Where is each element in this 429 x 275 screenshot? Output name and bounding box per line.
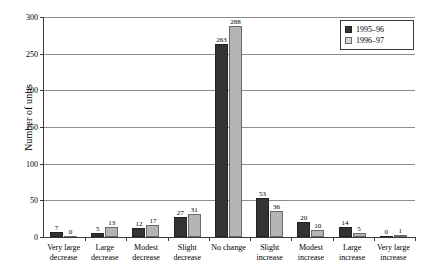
x-axis-label-line: Slight	[249, 243, 290, 253]
bar-chart: Number of units 050100150200250300 70513…	[0, 0, 429, 275]
bar-1: 0	[64, 236, 77, 237]
x-axis-category-label: No change	[208, 243, 249, 253]
bar-value-label: 288	[230, 18, 241, 26]
bar-1: 13	[105, 227, 118, 237]
bar-0: 263	[215, 44, 228, 237]
x-tick-mark	[374, 237, 375, 241]
bar-value-label: 263	[216, 36, 227, 44]
bar-0: 14	[339, 227, 352, 237]
x-tick-mark	[250, 237, 251, 241]
x-axis-label-line: increase	[332, 253, 373, 263]
bar-value-label: 10	[314, 222, 321, 230]
bar-0: 5	[91, 233, 104, 237]
x-axis-labels: Very largedecreaseLargedecreaseModestdec…	[43, 243, 414, 273]
legend-item[interactable]: 1995–96	[345, 24, 409, 35]
x-axis-category-label: Very largedecrease	[43, 243, 84, 262]
bar-1: 31	[188, 214, 201, 237]
bar-value-label: 17	[149, 217, 156, 225]
x-axis-label-line: Very large	[373, 243, 414, 253]
bar-group: 70	[44, 17, 85, 237]
x-axis-label-line: decrease	[167, 253, 208, 263]
y-tick-label: 250	[26, 49, 38, 58]
x-tick-mark	[126, 237, 127, 241]
x-tick-mark	[168, 237, 169, 241]
x-axis-label-line: decrease	[43, 253, 84, 263]
legend-swatch-icon	[345, 26, 352, 33]
bar-1: 10	[311, 230, 324, 237]
bar-0: 0	[380, 236, 393, 237]
bar-0: 53	[256, 198, 269, 237]
x-tick-mark	[85, 237, 86, 241]
x-tick-mark	[291, 237, 292, 241]
bar-group: 5336	[250, 17, 291, 237]
legend-label: 1995–96	[356, 25, 384, 34]
bar-value-label: 53	[259, 190, 266, 198]
bar-value-label: 5	[357, 225, 361, 233]
x-axis-label-line: increase	[249, 253, 290, 263]
x-axis-category-label: Slightincrease	[249, 243, 290, 262]
x-axis-category-label: Very largeincrease	[373, 243, 414, 262]
x-tick-mark	[333, 237, 334, 241]
y-tick-label: 300	[26, 13, 38, 22]
bar-value-label: 0	[69, 228, 73, 236]
bar-1: 5	[353, 233, 366, 237]
x-tick-mark	[415, 237, 416, 241]
bar-group: 2010	[291, 17, 332, 237]
bar-value-label: 20	[300, 214, 307, 222]
bar-group: 263288	[209, 17, 250, 237]
x-axis-category-label: Slightdecrease	[167, 243, 208, 262]
bar-group: 2731	[168, 17, 209, 237]
legend-swatch-icon	[345, 37, 352, 44]
bar-group: 513	[85, 17, 126, 237]
y-tick-label: 200	[26, 86, 38, 95]
bar-0: 27	[174, 217, 187, 237]
x-tick-mark	[209, 237, 210, 241]
chart-legend: 1995–961996–97	[340, 20, 414, 50]
x-axis-label-line: Modest	[290, 243, 331, 253]
y-tick-label: 100	[26, 159, 38, 168]
x-axis-category-label: Largeincrease	[332, 243, 373, 262]
x-axis-label-line: Large	[84, 243, 125, 253]
x-axis-label-line: decrease	[84, 253, 125, 263]
legend-item[interactable]: 1996–97	[345, 35, 409, 46]
x-axis-label-line: Very large	[43, 243, 84, 253]
x-axis-label-line: Large	[332, 243, 373, 253]
legend-label: 1996–97	[356, 36, 384, 45]
y-tick-label: 0	[34, 233, 38, 242]
bar-group: 1217	[126, 17, 167, 237]
bar-value-label: 0	[385, 228, 389, 236]
bar-group: 145	[333, 17, 374, 237]
bar-1: 1	[394, 235, 407, 237]
bar-0: 20	[297, 222, 310, 237]
bar-value-label: 27	[177, 209, 184, 217]
bar-0: 12	[132, 228, 145, 237]
bar-value-label: 13	[108, 219, 115, 227]
bars-layer: 70513121727312632885336201014501	[44, 17, 415, 237]
x-axis-label-line: Slight	[167, 243, 208, 253]
x-axis-label-line: No change	[208, 243, 249, 253]
bar-value-label: 5	[96, 225, 100, 233]
x-axis-category-label: Modestincrease	[290, 243, 331, 262]
bar-0: 7	[50, 232, 63, 237]
bar-1: 288	[229, 26, 242, 237]
bar-value-label: 7	[55, 224, 59, 232]
bar-value-label: 12	[135, 220, 142, 228]
bar-group: 01	[374, 17, 415, 237]
x-axis-category-label: Modestdecrease	[125, 243, 166, 262]
plot-area: 050100150200250300 705131217273126328853…	[43, 17, 415, 238]
y-tick-label: 150	[26, 123, 38, 132]
y-tick-label: 50	[30, 196, 38, 205]
bar-1: 36	[270, 211, 283, 237]
x-axis-category-label: Largedecrease	[84, 243, 125, 262]
x-axis-label-line: increase	[290, 253, 331, 263]
y-tick-mark	[40, 237, 44, 238]
bar-value-label: 36	[273, 203, 280, 211]
bar-1: 17	[146, 225, 159, 237]
bar-value-label: 1	[399, 227, 403, 235]
x-axis-label-line: increase	[373, 253, 414, 263]
x-axis-label-line: Modest	[125, 243, 166, 253]
bar-value-label: 14	[342, 219, 349, 227]
x-axis-label-line: decrease	[125, 253, 166, 263]
y-axis-title: Number of units	[23, 38, 34, 198]
bar-value-label: 31	[191, 206, 198, 214]
